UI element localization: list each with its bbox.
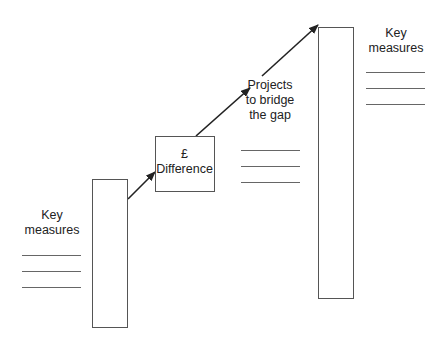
right-label-line1: Key [362, 26, 430, 41]
projects-line1: Projects [236, 78, 304, 93]
right-label-line2: measures [362, 41, 430, 56]
left-measure-line-1 [22, 255, 81, 256]
projects-line3: the gap [236, 108, 304, 123]
arrow-current-to-difference [128, 172, 155, 199]
left-label-line2: measures [18, 223, 86, 238]
currency-symbol: £ [156, 147, 213, 162]
difference-text: Difference [156, 162, 213, 177]
current-level-bar [92, 179, 128, 328]
projects-measure-line-1 [241, 150, 300, 151]
projects-line2: to bridge [236, 93, 304, 108]
projects-measure-line-2 [241, 166, 300, 167]
left-measure-line-2 [22, 271, 81, 272]
left-key-measures-label: Key measures [18, 208, 86, 238]
right-key-measures-label: Key measures [362, 26, 430, 56]
right-measure-line-2 [366, 88, 425, 89]
projects-measure-line-3 [241, 182, 300, 183]
arrow-projects-to-target [262, 25, 318, 76]
left-label-line1: Key [18, 208, 86, 223]
right-measure-line-3 [366, 104, 425, 105]
left-measure-line-3 [22, 287, 81, 288]
projects-label: Projects to bridge the gap [236, 78, 304, 123]
difference-box: £ Difference [155, 136, 215, 192]
target-level-bar [318, 27, 354, 299]
right-measure-line-1 [366, 72, 425, 73]
difference-label: £ Difference [156, 147, 213, 177]
